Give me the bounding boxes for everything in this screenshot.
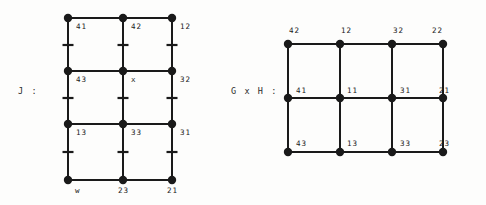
graph-node-label: 22: [432, 26, 443, 35]
graph-node-label: 21: [439, 86, 450, 95]
graph-node: [388, 148, 396, 156]
right-graph-caption: G x H :: [231, 86, 278, 96]
graph-node-label: 12: [180, 22, 191, 31]
graph-node: [388, 40, 396, 48]
graph-node: [439, 94, 447, 102]
graph-node: [119, 120, 127, 128]
graph-node-label: w: [75, 186, 80, 195]
graph-node: [64, 67, 72, 75]
graph-node: [168, 67, 176, 75]
graph-node: [388, 94, 396, 102]
graph-node: [168, 176, 176, 184]
graph-node: [336, 94, 344, 102]
graph-node: [119, 67, 127, 75]
graph-node-label: 41: [76, 22, 87, 31]
graph-node-label: 13: [76, 128, 87, 137]
graph-node-label: 32: [393, 26, 404, 35]
graph-node-label: 42: [289, 26, 300, 35]
graph-node: [336, 148, 344, 156]
graph-node-label: 33: [400, 139, 411, 148]
graph-node: [168, 120, 176, 128]
left-graph-caption: J :: [18, 86, 38, 96]
figure-canvas: J : G x H : 41421243x32133331w2321 42123…: [0, 0, 486, 205]
graph-node-label: 21: [167, 186, 178, 195]
graph-node: [284, 148, 292, 156]
graph-node-label: 31: [400, 86, 411, 95]
graph-node: [64, 14, 72, 22]
graph-node-label: 23: [118, 186, 129, 195]
graph-node-label: x: [131, 75, 136, 84]
graph-node: [119, 14, 127, 22]
graph-node-label: 33: [131, 128, 142, 137]
graph-node-label: 42: [131, 22, 142, 31]
graph-node: [168, 14, 176, 22]
graph-node: [439, 40, 447, 48]
graph-node-label: 11: [347, 86, 358, 95]
graph-node: [64, 176, 72, 184]
graph-node: [439, 148, 447, 156]
graph-node-label: 41: [296, 86, 307, 95]
graph-node: [64, 120, 72, 128]
graph-node-label: 43: [296, 139, 307, 148]
graph-node-label: 12: [341, 26, 352, 35]
graph-node: [284, 94, 292, 102]
graph-node-label: 43: [76, 75, 87, 84]
graph-node-label: 13: [347, 139, 358, 148]
graph-node: [336, 40, 344, 48]
graph-node-label: 31: [180, 128, 191, 137]
graph-node-label: 32: [180, 75, 191, 84]
graph-node-label: 23: [439, 139, 450, 148]
graph-node: [119, 176, 127, 184]
graph-node: [284, 40, 292, 48]
right-graph-edges: [288, 44, 443, 152]
graph-figure: [0, 0, 486, 205]
